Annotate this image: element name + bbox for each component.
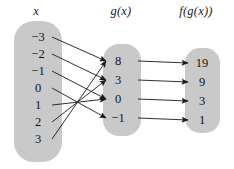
domain-value-4: 1 — [35, 98, 41, 113]
domain-value-3: 0 — [35, 81, 41, 96]
middle-value-1: 3 — [115, 73, 121, 88]
arrows-middle-to-range — [138, 61, 188, 120]
arrow-middle-to-range-2 — [138, 99, 188, 101]
middle-value-2: 0 — [115, 92, 121, 107]
column-header-domain: x — [33, 4, 39, 19]
domain-value-0: −3 — [31, 30, 44, 45]
arrow-middle-to-range-3 — [138, 118, 188, 120]
mapping-diagram: x g(x) f(g(x)) −3−2−10123 830−1 19931 — [0, 0, 234, 169]
arrow-middle-to-range-1 — [138, 80, 188, 82]
range-value-2: 3 — [199, 94, 205, 109]
column-header-middle: g(x) — [111, 4, 132, 19]
middle-value-3: −1 — [111, 111, 124, 126]
domain-value-6: 3 — [35, 132, 41, 147]
column-header-range: f(g(x)) — [179, 4, 212, 19]
domain-value-5: 2 — [35, 115, 41, 130]
arrow-middle-to-range-0 — [138, 61, 188, 63]
range-value-1: 9 — [199, 75, 205, 90]
domain-value-2: −1 — [31, 64, 44, 79]
middle-value-0: 8 — [115, 54, 121, 69]
domain-value-1: −2 — [31, 47, 44, 62]
range-value-3: 1 — [199, 113, 205, 128]
range-value-0: 19 — [196, 56, 209, 71]
